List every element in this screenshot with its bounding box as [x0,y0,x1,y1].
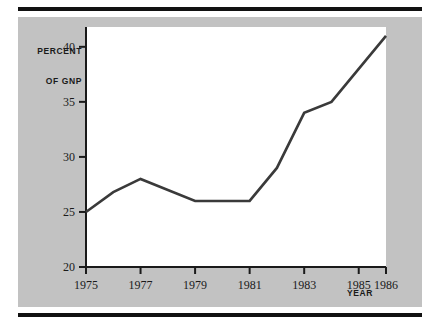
x-tick-label: 1975 [74,278,98,292]
x-tick-label: 1979 [183,278,207,292]
bottom-divider-rule [18,313,422,317]
y-tick-label: 20 [63,260,75,274]
chart-tick-marks [79,47,386,274]
x-tick-label: 1983 [292,278,316,292]
top-divider-rule [18,7,422,11]
data-series-line [86,36,386,212]
y-tick-label: 25 [63,205,75,219]
y-axis-title-line-1: PERCENT [26,46,82,56]
x-tick-label: 1977 [129,278,153,292]
y-axis-title-line-2: OF GNP [26,76,82,86]
y-axis-title: PERCENT OF GNP [26,26,82,106]
y-tick-label: 30 [63,150,75,164]
x-axis-title: YEAR [330,288,390,298]
chart-axes [86,27,386,267]
axis-lines [86,27,386,267]
x-tick-label: 1981 [238,278,262,292]
chart-figure: 2025303540 1975197719791981198319851986 … [0,0,440,328]
data-series-group [86,36,386,212]
